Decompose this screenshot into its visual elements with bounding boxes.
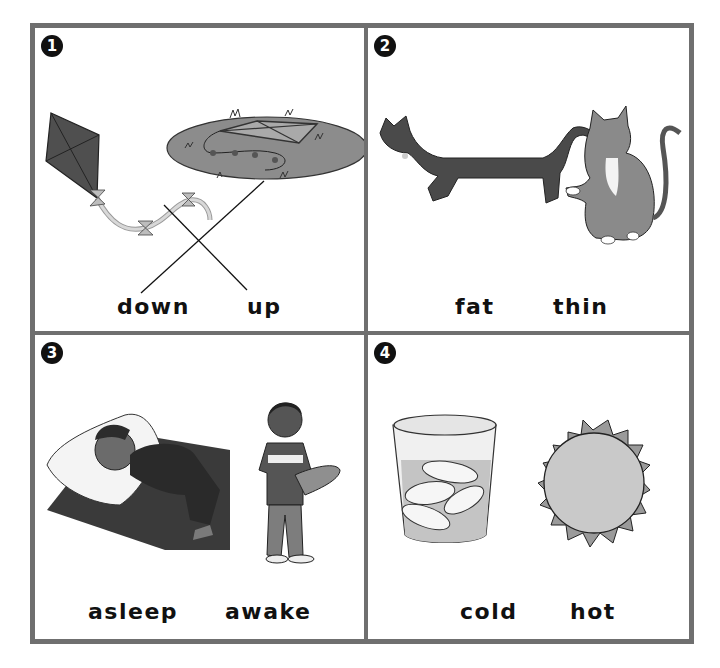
awake-boy-icon <box>259 403 340 563</box>
cat-illustrations <box>368 28 689 331</box>
word-down: down <box>117 296 190 318</box>
panel-1: 1 down up <box>35 28 364 331</box>
panel-3: 3 asleep awake <box>35 335 364 639</box>
panel-4: 4 cold hot <box>368 335 689 639</box>
panel-number-badge: 1 <box>41 35 63 57</box>
ice-water-glass-icon <box>393 415 496 543</box>
word-fat: fat <box>455 296 494 318</box>
panel-number-badge: 4 <box>374 342 396 364</box>
kite-illustrations <box>35 28 364 331</box>
temperature-illustrations <box>368 335 689 639</box>
word-thin: thin <box>553 296 608 318</box>
sleep-illustrations <box>35 335 364 639</box>
panel-2: 2 fat thin <box>368 28 689 331</box>
word-awake: awake <box>225 601 311 623</box>
panel-number-badge: 2 <box>374 35 396 57</box>
sun-icon <box>538 420 650 547</box>
word-cold: cold <box>460 601 517 623</box>
fat-cat-icon <box>566 106 680 244</box>
word-hot: hot <box>570 601 616 623</box>
worksheet: 1 down up 2 fat thin <box>30 23 694 644</box>
sleeping-boy-icon <box>47 414 230 550</box>
grounded-kite-icon <box>167 109 364 179</box>
word-asleep: asleep <box>88 601 178 623</box>
panel-number-badge: 3 <box>41 342 63 364</box>
word-up: up <box>247 296 281 318</box>
